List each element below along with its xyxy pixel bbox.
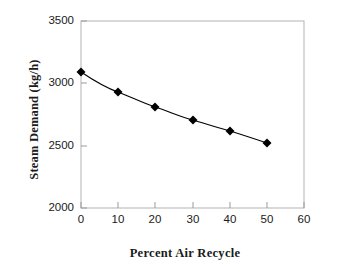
x-axis-ticks xyxy=(81,202,304,208)
data-point-5 xyxy=(263,139,272,148)
chart-figure: Steam Demand (kg/h) Percent Air Recycle … xyxy=(0,0,352,280)
series-line xyxy=(81,72,267,143)
series-markers xyxy=(77,68,272,148)
data-point-3 xyxy=(189,116,198,125)
y-axis-ticks xyxy=(81,21,87,208)
data-point-1 xyxy=(114,88,123,97)
plot-area xyxy=(0,0,352,280)
data-point-4 xyxy=(226,127,235,136)
data-point-0 xyxy=(77,68,86,77)
plot-frame xyxy=(81,21,304,208)
data-point-2 xyxy=(151,103,160,112)
